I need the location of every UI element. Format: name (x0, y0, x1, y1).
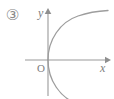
parabola-upper-branch (48, 11, 108, 61)
origin-label: O (37, 62, 45, 74)
parabola-lower-branch (48, 60, 108, 99)
x-axis-label: x (99, 61, 106, 75)
y-axis-label: y (37, 6, 44, 20)
parabola-plot: y x O (0, 0, 114, 99)
y-axis-arrowhead (45, 8, 52, 14)
x-axis-arrowhead (105, 57, 111, 64)
figure-container: ③ y x O (0, 0, 114, 99)
